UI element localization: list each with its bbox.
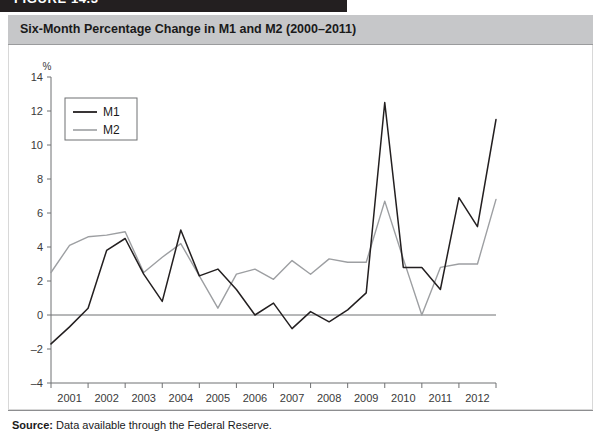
y-axis-tick-label: 4 — [37, 241, 43, 253]
x-axis-tick-label: 2003 — [131, 392, 155, 404]
x-axis-tick-label: 2008 — [317, 392, 341, 404]
series-line-m2 — [51, 199, 496, 315]
legend-box — [65, 98, 137, 140]
y-axis-tick-label: –4 — [31, 377, 43, 389]
x-axis-tick-label: 2002 — [94, 392, 118, 404]
figure-number-banner: FIGURE 14.3 — [0, 0, 347, 12]
y-axis-tick-label: 8 — [37, 173, 43, 185]
x-axis-tick-label: 2001 — [57, 392, 81, 404]
figure-number-label: FIGURE 14.3 — [14, 0, 99, 6]
x-axis-tick-label: 2007 — [280, 392, 304, 404]
x-axis-tick-label: 2004 — [169, 392, 193, 404]
line-chart: –4–202468101214%200120022003200420052006… — [9, 45, 592, 408]
legend-label-m1: M1 — [103, 105, 120, 119]
x-axis-tick-label: 2012 — [465, 392, 489, 404]
x-axis-tick-label: 2011 — [429, 392, 453, 404]
y-axis-tick-label: 2 — [37, 275, 43, 287]
y-axis-tick-label: 0 — [37, 309, 43, 321]
y-axis-tick-label: 14 — [31, 71, 43, 83]
y-axis-tick-label: –2 — [31, 343, 43, 355]
page-title: Six-Month Percentage Change in M1 and M2… — [20, 22, 356, 36]
x-axis-tick-label: 2005 — [206, 392, 230, 404]
x-axis-tick-label: 2009 — [354, 392, 378, 404]
y-axis-tick-label: 10 — [31, 139, 43, 151]
source-text: Data available through the Federal Reser… — [53, 419, 272, 431]
source-note: Source: Data available through the Feder… — [12, 419, 272, 431]
footer-divider — [8, 410, 593, 411]
x-axis-tick-label: 2010 — [391, 392, 415, 404]
x-axis-tick-label: 2006 — [243, 392, 267, 404]
source-label: Source: — [12, 419, 53, 431]
chart-panel: –4–202468101214%200120022003200420052006… — [8, 45, 593, 410]
figure-title-bar: Six-Month Percentage Change in M1 and M2… — [8, 15, 593, 45]
y-axis-tick-label: 12 — [31, 105, 43, 117]
y-axis-tick-label: 6 — [37, 207, 43, 219]
y-axis-unit-label: % — [43, 61, 52, 72]
legend-label-m2: M2 — [103, 123, 120, 137]
